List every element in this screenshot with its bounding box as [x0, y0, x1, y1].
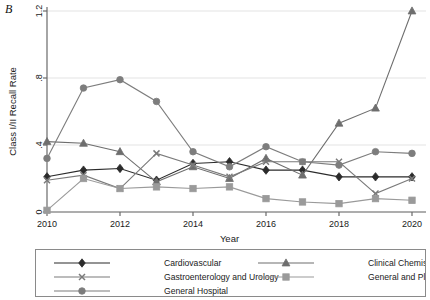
data-point-diamond-marker [79, 259, 86, 267]
data-point-square-marker [263, 195, 269, 201]
y-axis-title: Class I/II Recall Rate [7, 67, 18, 156]
data-point-square-marker [409, 197, 415, 203]
data-point-square-marker [372, 195, 378, 201]
data-point-square-marker [153, 184, 159, 190]
data-point-circle-marker [372, 148, 379, 155]
data-point-diamond-marker [117, 164, 124, 172]
x-tick-label: 2014 [183, 219, 203, 229]
legend-entry-gastroenterology-and-urology[interactable]: Gastroenterology and Urology [54, 272, 279, 282]
data-point-square-marker [117, 185, 123, 191]
x-tick-label: 2010 [37, 219, 57, 229]
y-tick-label: 1.2 [34, 5, 44, 18]
data-point-square-marker [44, 207, 50, 213]
x-axis-title: Year [220, 233, 239, 244]
legend-entry-cardiovascular[interactable]: Cardiovascular [54, 258, 221, 268]
line-chart: 0.4.81.2201020122014201620182020YearClas… [0, 0, 430, 250]
data-point-triangle-marker [262, 154, 270, 161]
data-point-square-marker [299, 199, 305, 205]
data-point-triangle-marker [408, 7, 416, 14]
figure-panel-b: B 0.4.81.2201020122014201620182020YearCl… [0, 0, 430, 300]
data-point-circle-marker [226, 163, 233, 170]
x-tick-label: 2012 [110, 219, 130, 229]
data-point-circle-marker [299, 158, 306, 165]
data-point-diamond-marker [263, 166, 270, 174]
data-point-circle-marker [336, 162, 343, 169]
series-line [47, 11, 412, 182]
data-point-square-marker [190, 185, 196, 191]
data-point-square-marker [80, 175, 86, 181]
data-point-circle-marker [117, 76, 124, 83]
data-point-circle-marker [80, 85, 87, 92]
data-point-triangle-marker [372, 104, 380, 111]
legend-entry-general-hospital[interactable]: General Hospital [54, 286, 228, 296]
legend-entry-general-and-plastic-surgey[interactable]: General and Plastic Surgey [258, 272, 425, 282]
legend-label: General Hospital [164, 286, 228, 296]
data-point-square-marker [336, 200, 342, 206]
data-point-diamond-marker [336, 173, 343, 181]
legend-content: CardiovascularClinical ChemistryGastroen… [36, 250, 425, 296]
data-point-square-marker [226, 184, 232, 190]
data-point-circle-marker [409, 150, 416, 157]
legend-label: Cardiovascular [164, 258, 221, 268]
data-point-square-marker [283, 274, 289, 280]
legend-entry-clinical-chemistry[interactable]: Clinical Chemistry [258, 258, 425, 268]
x-tick-label: 2018 [329, 219, 349, 229]
x-tick-label: 2020 [402, 219, 422, 229]
data-point-diamond-marker [372, 173, 379, 181]
data-point-triangle-marker [43, 138, 51, 145]
series-general-hospital [44, 76, 416, 170]
chart-legend: CardiovascularClinical ChemistryGastroen… [35, 249, 426, 297]
x-tick-label: 2016 [256, 219, 276, 229]
data-point-circle-marker [153, 98, 160, 105]
data-point-circle-marker [44, 155, 51, 162]
legend-label: Clinical Chemistry [368, 258, 425, 268]
legend-label: General and Plastic Surgey [368, 272, 425, 282]
y-tick-label: .8 [34, 74, 44, 82]
series-line [47, 179, 412, 211]
y-tick-label: 0 [34, 209, 44, 214]
data-point-circle-marker [79, 288, 86, 295]
data-point-circle-marker [263, 143, 270, 150]
data-point-circle-marker [190, 148, 197, 155]
series-line [47, 80, 412, 167]
